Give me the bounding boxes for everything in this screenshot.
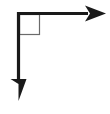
diagram-canvas (0, 0, 110, 114)
perpendicular-rays-figure (0, 0, 110, 114)
